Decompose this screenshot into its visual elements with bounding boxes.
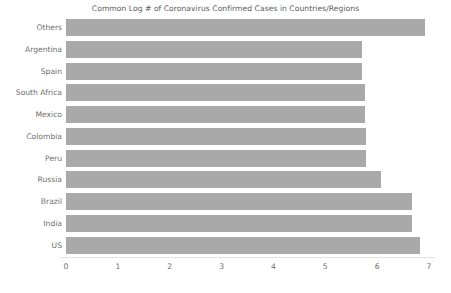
- bar-brazil: [66, 193, 412, 210]
- y-axis-label-spain: Spain: [0, 63, 62, 80]
- chart-title: Common Log # of Coronavirus Confirmed Ca…: [0, 4, 451, 13]
- x-axis-line: [60, 257, 435, 258]
- bar-others: [66, 19, 425, 36]
- bar-chart: Common Log # of Coronavirus Confirmed Ca…: [0, 0, 451, 293]
- bar-peru: [66, 150, 366, 167]
- bar-argentina: [66, 41, 362, 58]
- y-axis-category-labels: OthersArgentinaSpainSouth AfricaMexicoCo…: [0, 18, 62, 257]
- bar-colombia: [66, 128, 366, 145]
- y-axis-label-mexico: Mexico: [0, 106, 62, 123]
- bar-mexico: [66, 106, 365, 123]
- bar-fill: [66, 193, 412, 210]
- x-axis-tick-labels: 01234567: [66, 262, 429, 276]
- y-axis-label-russia: Russia: [0, 171, 62, 188]
- bar-fill: [66, 19, 425, 36]
- x-tick-3: 3: [219, 262, 224, 271]
- bar-fill: [66, 171, 381, 188]
- bar-russia: [66, 171, 381, 188]
- y-axis-label-argentina: Argentina: [0, 41, 62, 58]
- bar-fill: [66, 84, 365, 101]
- y-axis-label-colombia: Colombia: [0, 128, 62, 145]
- bar-india: [66, 215, 412, 232]
- plot-area: [66, 18, 429, 257]
- bar-fill: [66, 41, 362, 58]
- x-tick-4: 4: [271, 262, 276, 271]
- bar-fill: [66, 63, 362, 80]
- bar-fill: [66, 128, 366, 145]
- y-axis-label-peru: Peru: [0, 150, 62, 167]
- y-axis-label-others: Others: [0, 19, 62, 36]
- bar-spain: [66, 63, 362, 80]
- x-tick-6: 6: [375, 262, 380, 271]
- x-tick-1: 1: [115, 262, 120, 271]
- bar-us: [66, 237, 420, 254]
- bar-south-africa: [66, 84, 365, 101]
- x-tick-2: 2: [167, 262, 172, 271]
- y-axis-label-us: US: [0, 237, 62, 254]
- bar-fill: [66, 150, 366, 167]
- y-axis-label-brazil: Brazil: [0, 193, 62, 210]
- bar-fill: [66, 106, 365, 123]
- y-axis-label-india: India: [0, 215, 62, 232]
- y-axis-label-south-africa: South Africa: [0, 84, 62, 101]
- bar-fill: [66, 215, 412, 232]
- x-tick-7: 7: [427, 262, 432, 271]
- x-tick-0: 0: [64, 262, 69, 271]
- bars-layer: [66, 18, 429, 257]
- x-tick-5: 5: [323, 262, 328, 271]
- bar-fill: [66, 237, 420, 254]
